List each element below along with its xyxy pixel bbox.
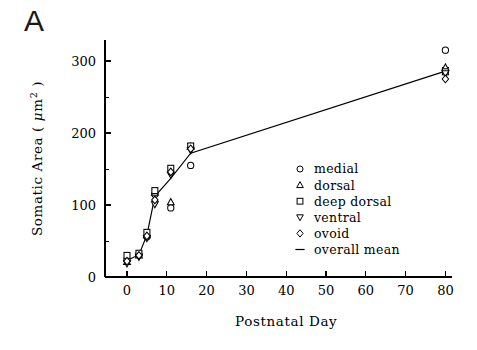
figure-panel: A 010203040506070800100200300 medialdors… bbox=[0, 0, 477, 350]
legend-marker-triangle-up bbox=[297, 182, 304, 188]
legend-label: dorsal bbox=[314, 178, 355, 193]
x-axis-tick-label: 40 bbox=[278, 283, 295, 298]
legend-label: deep dorsal bbox=[314, 194, 391, 209]
x-axis-tick-label: 50 bbox=[318, 283, 335, 298]
scatter-plot: 010203040506070800100200300 medialdorsal… bbox=[0, 0, 477, 350]
x-axis-title: Postnatal Day bbox=[235, 313, 337, 329]
legend-marker-triangle-down bbox=[297, 215, 304, 221]
x-axis-tick-label: 70 bbox=[397, 283, 414, 298]
legend-label: ventral bbox=[313, 210, 361, 225]
data-point-diamond bbox=[442, 75, 448, 83]
legend-label: overall mean bbox=[314, 242, 400, 257]
legend-group: medialdorsaldeep dorsalventralovoidovera… bbox=[295, 161, 399, 257]
x-axis-tick-label: 60 bbox=[358, 283, 375, 298]
legend-marker-circle bbox=[297, 166, 303, 172]
y-axis-title: Somatic Area ( μm2 ) bbox=[28, 81, 46, 236]
data-point-circle bbox=[188, 162, 194, 168]
data-point-triangle-up bbox=[167, 199, 174, 205]
data-point-circle bbox=[442, 47, 448, 53]
x-axis-tick-label: 30 bbox=[238, 283, 255, 298]
x-axis-tick-label: 20 bbox=[198, 283, 215, 298]
legend-marker-diamond bbox=[297, 230, 303, 237]
y-axis-tick-label: 200 bbox=[71, 126, 96, 141]
x-axis-tick-label: 80 bbox=[437, 283, 454, 298]
legend-label: ovoid bbox=[314, 226, 350, 241]
data-group bbox=[124, 47, 449, 267]
y-axis-tick-label: 300 bbox=[71, 54, 96, 69]
y-axis-tick-label: 100 bbox=[71, 198, 96, 213]
data-point-square bbox=[152, 188, 158, 194]
x-axis-tick-label: 10 bbox=[159, 283, 176, 298]
overall-mean-line bbox=[127, 71, 445, 260]
legend-marker-square bbox=[297, 198, 303, 204]
y-axis-tick-label: 0 bbox=[88, 270, 96, 285]
legend-label: medial bbox=[314, 161, 359, 176]
x-axis-tick-label: 0 bbox=[123, 283, 131, 298]
data-point-circle bbox=[168, 205, 174, 211]
